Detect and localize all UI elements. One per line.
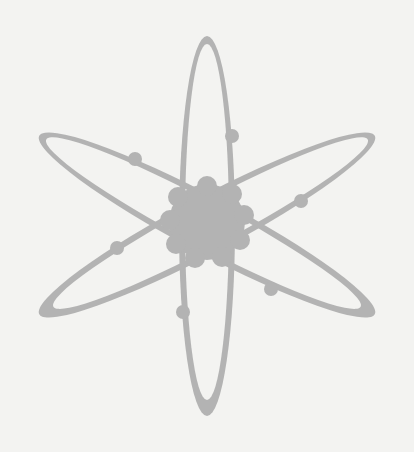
electron-6 — [176, 305, 190, 319]
atom-icon — [0, 0, 414, 452]
electron-1 — [225, 129, 239, 143]
electron-5 — [264, 282, 278, 296]
atom-illustration: Atom icon with three elliptical orbits, … — [0, 0, 414, 452]
electron-2 — [128, 152, 142, 166]
electron-4 — [110, 241, 124, 255]
electron-3 — [294, 194, 308, 208]
